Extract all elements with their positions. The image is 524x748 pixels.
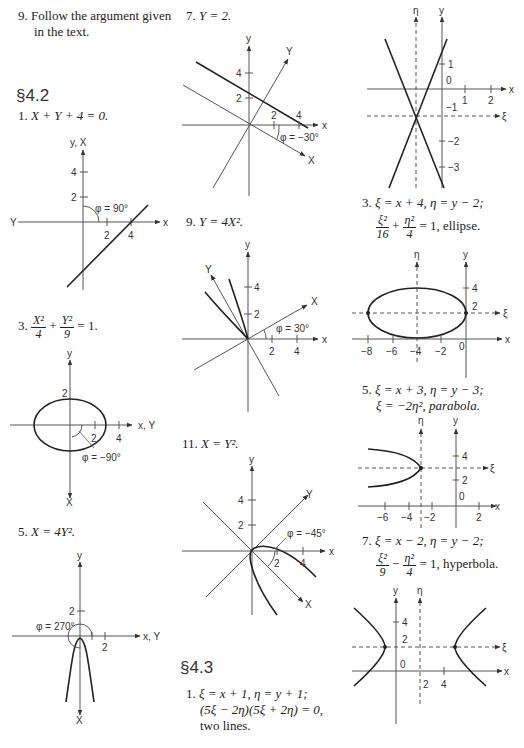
- svg-text:η: η: [417, 585, 423, 596]
- svg-text:y: y: [393, 585, 398, 596]
- svg-text:0: 0: [400, 659, 406, 670]
- svg-text:4: 4: [402, 617, 408, 628]
- svg-text:x: x: [504, 666, 509, 677]
- svg-text:ξ: ξ: [502, 642, 507, 654]
- svg-text:2: 2: [423, 679, 429, 690]
- svg-text:2: 2: [402, 634, 408, 645]
- graph-hyperbola-translated: η y x ξ 4 2 0 2 4: [0, 0, 524, 748]
- svg-text:4: 4: [441, 679, 447, 690]
